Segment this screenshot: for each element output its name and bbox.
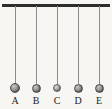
pendulum-string-c — [57, 6, 58, 84]
pendulum-bob-e — [95, 84, 104, 93]
pendulum-label-e: E — [91, 96, 107, 106]
pendulum-string-d — [78, 6, 79, 84]
pendulum-label-d: D — [70, 96, 86, 106]
pendulum-diagram: A B C D E — [0, 0, 112, 109]
pendulum-string-a — [15, 6, 16, 84]
pendulum-bob-d — [74, 84, 83, 93]
pendulum-bob-c — [53, 84, 61, 92]
pendulum-string-b — [36, 6, 37, 84]
pendulum-label-c: C — [49, 96, 65, 106]
pendulum-string-e — [99, 6, 100, 84]
pendulum-bob-a — [10, 83, 20, 93]
support-bar — [2, 4, 110, 7]
pendulum-label-b: B — [28, 96, 44, 106]
pendulum-bob-b — [32, 84, 41, 93]
pendulum-label-a: A — [7, 96, 23, 106]
